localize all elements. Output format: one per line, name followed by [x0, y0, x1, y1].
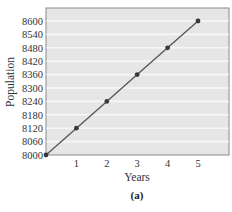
y-axis-title: Population [4, 57, 17, 107]
y-tick-label: 8240 [22, 96, 43, 107]
x-tick-label: 1 [74, 158, 79, 169]
figure-caption: (a) [131, 189, 144, 202]
y-tick-label: 8420 [22, 56, 43, 67]
data-point [135, 72, 140, 77]
x-axis-title: Years [124, 171, 150, 183]
y-axis-ticks: 8000806081208180824083008360842084808540… [22, 16, 43, 161]
y-tick-label: 8480 [22, 43, 43, 54]
x-axis-ticks: 12345 [74, 158, 201, 169]
data-point [44, 153, 49, 158]
y-tick-label: 8600 [22, 16, 43, 27]
x-tick-label: 5 [195, 158, 200, 169]
y-tick-label: 8540 [22, 29, 43, 40]
y-tick-label: 8300 [22, 83, 43, 94]
y-tick-label: 8060 [22, 136, 43, 147]
data-point [196, 19, 201, 24]
data-point [104, 99, 109, 104]
y-tick-label: 8360 [22, 69, 43, 80]
y-tick-label: 8180 [22, 110, 43, 121]
plot-area [46, 8, 229, 155]
y-tick-label: 8120 [22, 123, 43, 134]
x-tick-label: 3 [135, 158, 140, 169]
x-tick-label: 4 [165, 158, 171, 169]
x-tick-label: 2 [104, 158, 109, 169]
y-tick-label: 8000 [22, 150, 43, 161]
data-point [165, 45, 170, 50]
data-point [74, 126, 79, 131]
population-line-chart: 8000806081208180824083008360842084808540… [0, 0, 232, 212]
